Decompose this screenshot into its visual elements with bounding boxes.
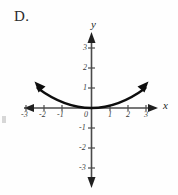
x-tick-label--3: -3 [21, 110, 28, 119]
graph-figure: D. [0, 0, 178, 195]
x-tick-label-3: 3 [144, 110, 148, 119]
y-tick-label--1: -1 [79, 123, 86, 132]
x-axis-right-arrowhead [148, 104, 158, 112]
x-tick-label--2: -2 [39, 110, 46, 119]
y-tick-label-2: 2 [83, 63, 87, 72]
x-tick-label--1: -1 [57, 110, 64, 119]
y-axis-bottom-arrowhead [88, 177, 96, 188]
y-axis [88, 32, 96, 188]
y-tick-label-3: 3 [83, 43, 87, 52]
x-tick-label-2: 2 [126, 110, 130, 119]
y-tick-label-1: 1 [83, 83, 87, 92]
y-axis-label: y [91, 18, 96, 30]
x-tick-label-1: 1 [108, 110, 112, 119]
curve-left-arrowhead [35, 82, 46, 93]
x-axis-label: x [163, 99, 168, 111]
curve-right-arrowhead [138, 82, 149, 93]
y-tick-label--3: -3 [79, 163, 86, 172]
y-tick-label--2: -2 [79, 143, 86, 152]
y-axis-top-arrowhead [88, 32, 96, 43]
coordinate-plane [0, 0, 178, 195]
x-tick-label-0: 0 [84, 110, 88, 119]
